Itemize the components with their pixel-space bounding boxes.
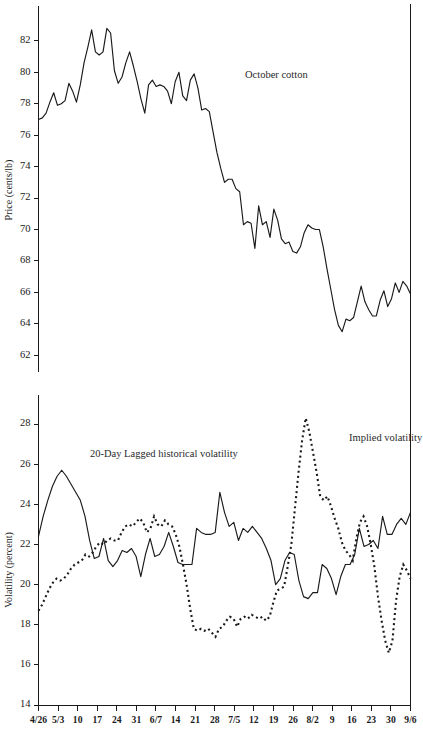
x-tick-label: 7/5 <box>228 714 240 725</box>
x-tick-label: 5/3 <box>52 714 64 725</box>
x-tick-label: 23 <box>367 714 377 725</box>
volatility-y-ticks <box>34 424 39 705</box>
volatility-axis-title: Volatility (percent) <box>3 532 15 608</box>
annotation-historical-volatility: 20-Day Lagged historical volatility <box>90 448 239 459</box>
x-tick-label: 24 <box>112 714 122 725</box>
price-axis-title: Price (cents/lb) <box>3 160 15 221</box>
x-axis-tick-labels: 4/265/3101724316/71421287/51219268/29162… <box>30 714 417 725</box>
x-tick-label: 21 <box>190 714 200 725</box>
x-tick-label: 30 <box>386 714 396 725</box>
x-tick-label: 8/2 <box>306 714 318 725</box>
y-tick-label: 76 <box>20 129 31 140</box>
y-tick-label: 18 <box>20 618 31 629</box>
x-tick-label: 19 <box>269 714 279 725</box>
y-tick-label: 72 <box>20 191 31 202</box>
price-y-ticks <box>34 41 39 355</box>
y-tick-label: 22 <box>20 538 31 549</box>
price-y-tick-labels: 6264666870727476788082 <box>20 34 31 359</box>
x-tick-label: 12 <box>249 714 259 725</box>
x-axis-ticks <box>39 706 411 712</box>
historical-volatility-line <box>39 470 411 598</box>
price-panel: 6264666870727476788082 Price (cents/lb) … <box>3 6 411 372</box>
x-tick-label: 14 <box>171 714 181 725</box>
y-tick-label: 82 <box>20 34 31 45</box>
cotton-volatility-figure: 6264666870727476788082 Price (cents/lb) … <box>0 0 423 736</box>
y-tick-label: 20 <box>20 578 31 589</box>
y-tick-label: 26 <box>20 458 31 469</box>
y-tick-label: 28 <box>20 417 31 428</box>
y-tick-label: 16 <box>20 658 31 669</box>
y-tick-label: 66 <box>20 286 31 297</box>
y-tick-label: 68 <box>20 254 31 265</box>
x-tick-label: 17 <box>92 714 102 725</box>
chart-canvas: 6264666870727476788082 Price (cents/lb) … <box>0 0 423 736</box>
y-tick-label: 80 <box>20 66 31 77</box>
x-tick-label: 6/7 <box>150 714 162 725</box>
x-tick-label: 28 <box>210 714 220 725</box>
volatility-panel: 1416182022242628 4/265/3101724316/714212… <box>3 395 423 725</box>
y-tick-label: 64 <box>20 317 31 328</box>
y-tick-label: 14 <box>20 698 31 709</box>
x-tick-label: 4/26 <box>30 714 47 725</box>
y-tick-label: 70 <box>20 223 31 234</box>
x-tick-label: 10 <box>73 714 83 725</box>
y-tick-label: 62 <box>20 349 31 360</box>
x-tick-label: 26 <box>288 714 298 725</box>
y-tick-label: 24 <box>20 498 31 509</box>
october-cotton-line <box>39 28 411 331</box>
volatility-y-tick-labels: 1416182022242628 <box>20 417 31 709</box>
annotation-october-cotton: October cotton <box>245 69 308 80</box>
x-tick-label: 9 <box>330 714 335 725</box>
x-tick-label: 31 <box>132 714 142 725</box>
y-tick-label: 78 <box>20 97 31 108</box>
x-tick-label: 16 <box>347 714 357 725</box>
y-tick-label: 74 <box>20 160 31 171</box>
x-tick-label: 9/6 <box>404 714 416 725</box>
annotation-implied-volatility: Implied volatility <box>349 432 423 443</box>
